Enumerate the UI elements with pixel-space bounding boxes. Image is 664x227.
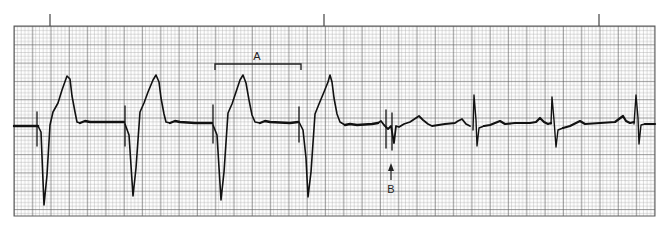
annotation-a-label: A (253, 50, 261, 62)
timing-marks (50, 14, 599, 26)
ecg-strip: A B (0, 0, 664, 227)
annotation-b-label: B (387, 183, 394, 195)
